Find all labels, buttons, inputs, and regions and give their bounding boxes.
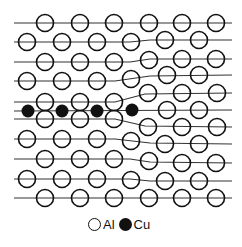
- legend-item-al: Al: [88, 217, 115, 232]
- legend-item-cu: Cu: [119, 217, 151, 232]
- legend: Al Cu: [88, 214, 154, 234]
- open-circle-icon: [88, 218, 101, 231]
- lattice-diagram: [0, 0, 242, 247]
- al-atom: [157, 136, 174, 153]
- legend-label-al: Al: [103, 217, 115, 232]
- cu-atom: [56, 105, 69, 118]
- cu-atom: [126, 104, 139, 117]
- filled-circle-icon: [119, 218, 132, 231]
- cu-atom: [91, 105, 104, 118]
- al-atom: [159, 67, 176, 84]
- cu-atom: [22, 105, 35, 118]
- al-atom: [140, 119, 157, 136]
- legend-label-cu: Cu: [134, 217, 151, 232]
- al-atom: [140, 85, 157, 102]
